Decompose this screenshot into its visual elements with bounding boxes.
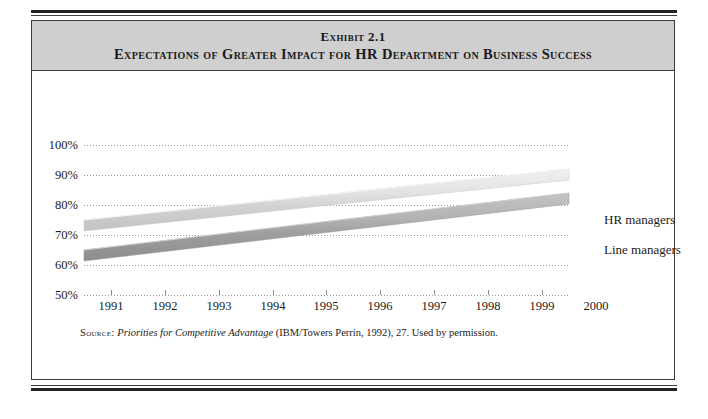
xtick-label-1999: 1999: [530, 298, 555, 314]
bottom-rule-thick: [31, 388, 677, 391]
xtick-1998: [488, 290, 489, 295]
xtick-1993: [219, 290, 220, 295]
xtick-label-1991: 1991: [99, 298, 124, 314]
xtick-1999: [542, 290, 543, 295]
ytick-label-80: 80%: [18, 196, 78, 214]
xtick-label-1993: 1993: [207, 298, 232, 314]
xtick-label-1996: 1996: [368, 298, 393, 314]
xtick-1997: [434, 290, 435, 295]
xtick-1995: [326, 290, 327, 295]
series-label-hr-managers: HR managers: [604, 212, 675, 228]
exhibit-number: Exhibit 2.1: [320, 29, 385, 45]
series-label-line-managers: Line managers: [604, 242, 681, 258]
ytick-label-60: 60%: [18, 256, 78, 274]
ytick-label-70: 70%: [18, 226, 78, 244]
source-publication-title: Priorities for Competitive Advantage: [117, 327, 273, 338]
top-rule-thick: [31, 10, 677, 13]
bottom-rule-thin: [31, 385, 677, 386]
xtick-1992: [165, 290, 166, 295]
ytick-label-90: 90%: [18, 166, 78, 184]
ytick-label-50: 50%: [18, 286, 78, 304]
source-label: Source:: [80, 327, 115, 338]
exhibit-title-band: Exhibit 2.1 Expectations of Greater Impa…: [32, 21, 674, 71]
xtick-label-1994: 1994: [261, 298, 286, 314]
data-series-svg: [84, 72, 569, 302]
xtick-label-1997: 1997: [422, 298, 447, 314]
x-axis: 1991 1992 1993 1994 1995 1996 1997 1998 …: [84, 295, 569, 321]
ytick-label-100: 100%: [18, 136, 78, 154]
xtick-1991: [111, 290, 112, 295]
exhibit-title: Expectations of Greater Impact for HR De…: [114, 45, 592, 63]
source-note: Source: Priorities for Competitive Advan…: [80, 326, 640, 340]
exhibit-frame: Exhibit 2.1 Expectations of Greater Impa…: [31, 20, 675, 380]
xtick-label-2000: 2000: [584, 298, 609, 314]
xtick-1994: [273, 290, 274, 295]
xtick-1996: [380, 290, 381, 295]
top-rule-thin: [31, 15, 677, 16]
xtick-label-1998: 1998: [476, 298, 501, 314]
xtick-label-1995: 1995: [314, 298, 339, 314]
xtick-label-1992: 1992: [153, 298, 178, 314]
source-rest: (IBM/Towers Perrin, 1992), 27. Used by p…: [276, 327, 498, 338]
